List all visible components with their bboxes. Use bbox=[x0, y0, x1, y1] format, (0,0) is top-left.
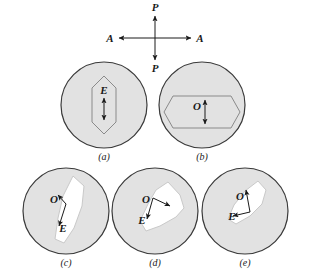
panel-caption-b: (b) bbox=[196, 151, 208, 163]
ray-label-a: E bbox=[99, 84, 107, 96]
o-ray-label-d: O bbox=[142, 193, 150, 205]
ray-label-b: O bbox=[193, 100, 201, 112]
e-ray-label-e: E bbox=[227, 210, 235, 222]
panel-caption-d: (d) bbox=[149, 257, 161, 269]
polarizer-label-bottom: P bbox=[152, 62, 159, 74]
panel-caption-e: (e) bbox=[239, 257, 251, 269]
panel-circle-b[interactable] bbox=[159, 62, 245, 148]
e-ray-label-c: E bbox=[58, 222, 66, 234]
figure-canvas: PPAAE(a)O(b)OE(c)OE(d)OE(e) bbox=[0, 0, 311, 276]
optical-diagram-svg: PPAAE(a)O(b)OE(c)OE(d)OE(e) bbox=[0, 0, 311, 276]
panel-caption-a: (a) bbox=[98, 151, 110, 163]
polarizer-label-top: P bbox=[152, 1, 159, 13]
panel-caption-c: (c) bbox=[60, 257, 72, 269]
e-ray-label-d: E bbox=[137, 214, 145, 226]
o-ray-label-c: O bbox=[50, 193, 58, 205]
analyzer-label-left: A bbox=[105, 32, 113, 44]
o-ray-label-e: O bbox=[236, 190, 244, 202]
analyzer-label-right: A bbox=[195, 32, 203, 44]
